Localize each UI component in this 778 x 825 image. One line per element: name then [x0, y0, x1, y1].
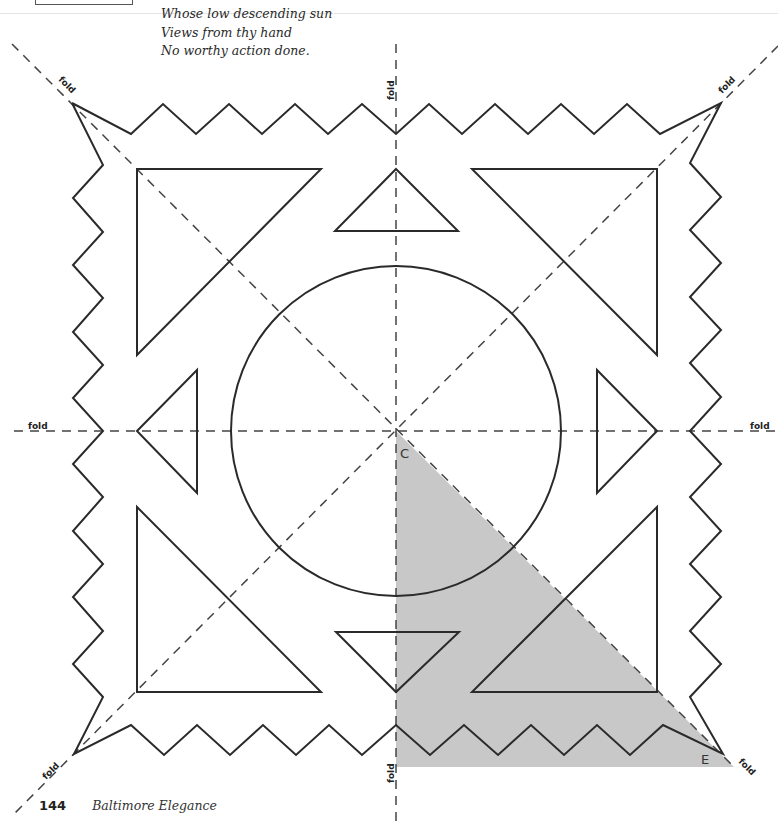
top-right-triangle — [472, 169, 657, 355]
book-title: Baltimore Elegance — [92, 798, 217, 813]
fold-label-right: fold — [750, 421, 770, 431]
fold-label-bottom-right: fold — [737, 756, 758, 777]
fold-label-left: fold — [28, 421, 48, 431]
page-footer: 144 Baltimore Elegance — [39, 798, 217, 818]
page-number: 144 — [39, 798, 66, 813]
bottom-left-triangle — [137, 507, 321, 692]
diagonal-fold-line-1 — [12, 44, 734, 767]
fold-label-bottom: fold — [386, 763, 396, 783]
fold-label-top-right: fold — [716, 74, 737, 95]
pattern-page: Whose low descending sun Views from thy … — [0, 0, 778, 825]
paper-cut-pattern: fold fold fold fold fold fold fold fold … — [0, 0, 778, 825]
point-label-c: C — [400, 446, 409, 461]
point-label-e: E — [701, 752, 709, 767]
fold-label-top: fold — [386, 80, 396, 100]
fold-label-bottom-left: fold — [40, 760, 61, 781]
